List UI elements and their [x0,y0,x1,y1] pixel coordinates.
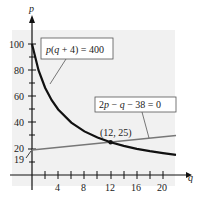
p-tick-40: 40 [14,117,24,128]
q-tick-4: 4 [55,182,60,193]
demand-equation: p(q + 4) = 400 [45,44,104,56]
p-axis-label: p [28,3,34,14]
supply-equation: 2p − q − 38 = 0 [99,99,161,110]
p-tick-19: 19 [14,154,24,165]
p-axis-arrow-icon [29,15,35,23]
intersection-label: (12, 25) [100,127,132,139]
p-tick-80: 80 [14,65,24,76]
p-tick-60: 60 [14,91,24,102]
q-tick-12: 12 [105,182,115,193]
p-tick-20: 20 [14,143,24,154]
demand-supply-chart: p q 100 80 60 40 20 19 4 8 12 16 20 [0,0,197,198]
q-axis-label: q [188,172,193,183]
q-tick-16: 16 [131,182,141,193]
p-tick-100: 100 [9,39,24,50]
q-tick-8: 8 [81,182,86,193]
intersection-point [108,140,112,144]
q-tick-20: 20 [157,182,167,193]
